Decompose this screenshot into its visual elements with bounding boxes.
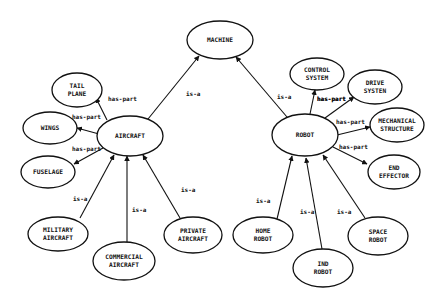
node-mechanical-structure: MECHANICALSTRUCTURE xyxy=(370,108,424,142)
node-label: EFFECTOR xyxy=(379,172,409,179)
edge-robot-to-control-system xyxy=(310,90,315,114)
node-private-aircraft: PRIVATEAIRCRAFT xyxy=(164,217,222,253)
node-ind-robot: INDROBOT xyxy=(293,249,353,287)
edge-label: is-a xyxy=(132,206,147,213)
node-robot: ROBOT xyxy=(272,114,338,156)
edge-label: is-a xyxy=(256,197,271,204)
node-label: AIRCRAFT xyxy=(109,261,139,268)
node-control-system: CONTROLSYSTEM xyxy=(290,58,344,90)
edge-label: has-part xyxy=(317,95,346,103)
node-drive-system: DRIVESYSTEN xyxy=(348,70,402,104)
node-label: AIRCRAFT xyxy=(178,235,208,242)
edge-label: is-a xyxy=(337,208,352,215)
edge-aircraft-to-wings xyxy=(77,128,99,134)
node-commercial-aircraft: COMMERCIALAIRCRAFT xyxy=(93,242,155,280)
node-label: CONTROL xyxy=(304,66,330,73)
edge-label: has-part xyxy=(336,118,365,126)
node-label: PRIVATE xyxy=(180,227,206,234)
edge-label: has-part xyxy=(339,143,368,151)
semantic-network-diagram: MACHINEAIRCRAFTROBOTTAILPLANEWINGSFUSELA… xyxy=(0,0,438,299)
edge-label: is-a xyxy=(186,90,201,97)
node-label: COMMERCIAL xyxy=(105,253,143,260)
edge-label: is-a xyxy=(277,93,292,100)
node-label: SYSTEN xyxy=(364,87,387,94)
node-label: IND xyxy=(317,260,328,267)
node-label: AIRCRAFT xyxy=(43,234,73,241)
node-label: PLANE xyxy=(68,90,87,97)
node-label: AIRCRAFT xyxy=(115,132,145,139)
node-label: SYSTEM xyxy=(306,74,329,81)
node-label: STRUCTURE xyxy=(380,125,414,132)
node-machine: MACHINE xyxy=(187,21,253,59)
node-label: SPACE xyxy=(369,228,388,235)
node-label: DRIVE xyxy=(366,79,385,86)
node-label: ROBOT xyxy=(296,131,315,138)
node-label: ROBOT xyxy=(254,235,273,242)
edge-label: is-a xyxy=(73,195,88,202)
edge-label: is-a xyxy=(181,186,196,193)
node-label: TAIL xyxy=(70,82,85,89)
node-space-robot: SPACEROBOT xyxy=(348,217,408,255)
node-label: MACHINE xyxy=(207,36,233,43)
node-label: MILITARY xyxy=(43,226,73,233)
node-tail-plane: TAILPLANE xyxy=(52,73,102,107)
node-aircraft: AIRCRAFT xyxy=(97,116,163,156)
node-label: ROBOT xyxy=(314,268,333,275)
edge-label: is-a xyxy=(300,208,315,215)
edge-robot-to-machine xyxy=(236,57,287,117)
edge-label: has-part xyxy=(72,113,101,121)
node-end-effector: ENDEFFECTOR xyxy=(368,155,420,189)
node-fuselage: FUSELAGE xyxy=(21,156,75,188)
node-wings: WINGS xyxy=(23,112,77,144)
node-label: FUSELAGE xyxy=(33,168,63,175)
node-label: MECHANICAL xyxy=(378,117,416,124)
edge-ind-robot-to-robot xyxy=(306,158,322,249)
node-military-aircraft: MILITARYAIRCRAFT xyxy=(28,217,88,251)
edge-robot-to-mechanical-structure xyxy=(337,127,370,135)
edge-label: has-part xyxy=(72,145,101,153)
edge-military-aircraft-to-aircraft xyxy=(80,155,114,218)
edge-label: has-part xyxy=(108,95,137,103)
node-label: END xyxy=(388,164,399,171)
node-home-robot: HOMEROBOT xyxy=(233,217,293,253)
nodes-layer: MACHINEAIRCRAFTROBOTTAILPLANEWINGSFUSELA… xyxy=(21,21,424,287)
edge-private-aircraft-to-aircraft xyxy=(143,155,180,218)
node-label: WINGS xyxy=(41,124,60,131)
node-label: HOME xyxy=(256,227,271,234)
edge-home-robot-to-robot xyxy=(277,156,292,219)
edge-aircraft-to-machine xyxy=(148,56,199,119)
node-label: ROBOT xyxy=(369,236,388,243)
